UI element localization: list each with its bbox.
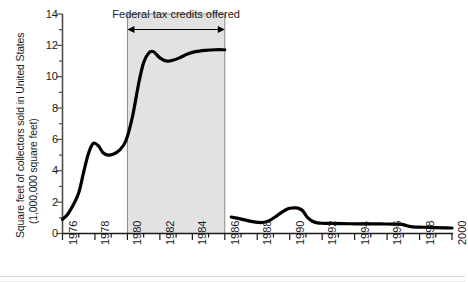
x-tick-label: 1998	[425, 220, 436, 244]
x-tick-label: 1976	[68, 220, 79, 244]
footer-divider	[0, 276, 465, 277]
annotation-label-federal-tax-credits: Federal tax credits offered	[87, 8, 264, 20]
x-tick-label: 1996	[392, 220, 403, 244]
x-tick-label: 1994	[360, 220, 371, 244]
x-tick-label: 1982	[165, 220, 176, 244]
x-tick-label: 2000	[457, 220, 468, 244]
x-tick-label: 1992	[327, 220, 338, 244]
x-tick-label: 1986	[230, 220, 241, 244]
x-tick-label: 1984	[197, 220, 208, 244]
x-tick-label: 1980	[132, 220, 143, 244]
x-tick-label: 1990	[295, 220, 306, 244]
x-tick-label: 1978	[100, 220, 111, 244]
x-tick-label: 1988	[262, 220, 273, 244]
